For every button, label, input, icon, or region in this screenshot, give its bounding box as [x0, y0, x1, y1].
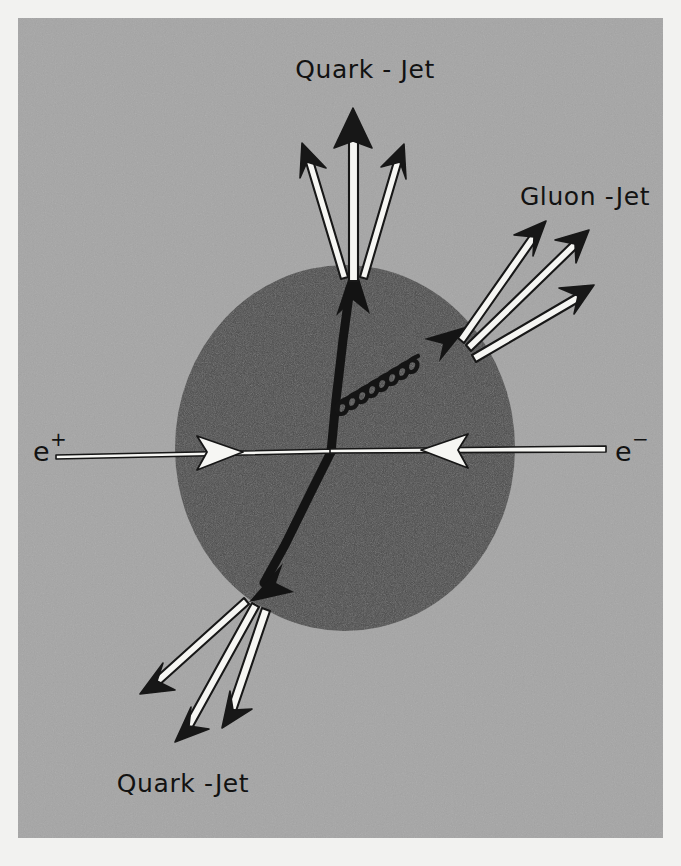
label-quark-jet-top: Quark - Jet — [295, 55, 435, 84]
label-gluon-jet: Gluon -Jet — [520, 182, 650, 211]
figure-root: Quark - Jet Gluon -Jet Quark -Jet e + e … — [0, 0, 681, 866]
label-electron-charge: − — [632, 427, 649, 451]
hadron-arrow — [349, 124, 358, 281]
label-quark-jet-bottom: Quark -Jet — [117, 769, 250, 798]
label-positron-charge: + — [50, 427, 67, 451]
label-electron-e: e — [615, 436, 632, 467]
diagram-canvas: Quark - Jet Gluon -Jet Quark -Jet e + e … — [0, 0, 681, 866]
label-positron-e: e — [33, 436, 50, 467]
